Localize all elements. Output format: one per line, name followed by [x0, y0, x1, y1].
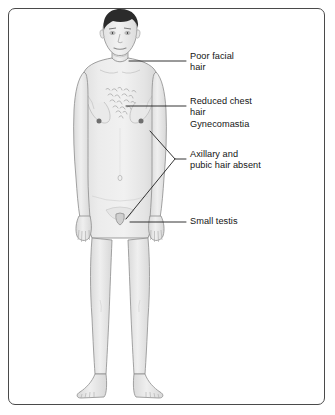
figure-legs: [77, 238, 163, 398]
foot-left: [77, 374, 106, 398]
label-poor-facial-hair: Poor facial hair: [190, 51, 234, 74]
nipple-left: [97, 119, 102, 124]
nipple-right: [139, 119, 144, 124]
label-reduced-chest-hair-gynecomastia: Reduced chest hair Gynecomastia: [190, 96, 252, 130]
label-small-testis: Small testis: [190, 216, 238, 227]
ear-left: [100, 30, 104, 38]
foot-right: [133, 374, 162, 398]
clinical-illustration-figure: Poor facial hair Reduced chest hair Gyne…: [0, 0, 335, 415]
arm-right: [150, 72, 166, 218]
ear-right: [136, 30, 140, 38]
body-diagram: [0, 0, 335, 415]
label-axillary-pubic-hair-absent: Axillary and pubic hair absent: [190, 149, 261, 172]
figure-head: [100, 9, 140, 63]
pupil-left: [112, 32, 114, 34]
arm-left: [74, 72, 90, 218]
pupil-right: [127, 32, 129, 34]
